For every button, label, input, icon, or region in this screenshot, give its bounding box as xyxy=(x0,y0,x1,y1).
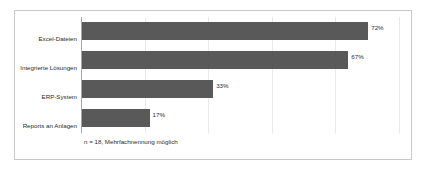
bar-row: 67% xyxy=(81,46,399,75)
bar[interactable] xyxy=(82,51,348,69)
bar-row: 72% xyxy=(81,17,399,46)
category-label: Reports an Anlagen xyxy=(0,123,77,129)
gridline xyxy=(399,17,400,133)
plot-area: 72% 67% 33% 17% xyxy=(81,17,399,133)
bar-row: 17% xyxy=(81,104,399,133)
category-label: Excel-Dateien xyxy=(0,36,77,42)
chart-annotation: n = 18, Mehrfachnennung möglich xyxy=(84,139,178,145)
bar[interactable] xyxy=(82,22,368,40)
bar-value-label: 72% xyxy=(371,25,383,31)
bar[interactable] xyxy=(82,109,150,127)
chart-frame: Excel-Dateien Integrierte Lösungen ERP-S… xyxy=(14,10,412,160)
category-label: Integrierte Lösungen xyxy=(0,65,77,71)
bar-value-label: 17% xyxy=(153,112,165,118)
bar-value-label: 33% xyxy=(216,83,228,89)
bar-value-label: 67% xyxy=(351,54,363,60)
category-label: ERP-System xyxy=(0,94,77,100)
category-axis: Excel-Dateien Integrierte Lösungen ERP-S… xyxy=(15,17,81,133)
bar[interactable] xyxy=(82,80,213,98)
bar-row: 33% xyxy=(81,75,399,104)
